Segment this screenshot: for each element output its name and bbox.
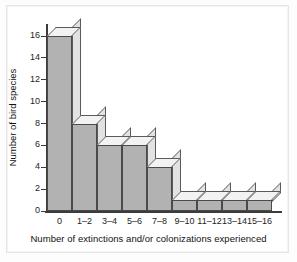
y-axis-tick xyxy=(41,145,46,146)
bar-9-10 xyxy=(172,200,197,211)
y-axis-tick-label-text: 0 xyxy=(16,206,40,215)
y-axis-tick xyxy=(41,57,46,58)
y-axis-tick-label-text: 10 xyxy=(16,97,40,106)
y-axis-tick-label: 0 xyxy=(12,206,40,215)
y-axis-tick-label: 8 xyxy=(12,119,40,128)
bar-3-4 xyxy=(97,145,122,211)
y-axis-tick-label-text: 8 xyxy=(16,119,40,128)
y-axis-tick-label: 14 xyxy=(12,53,40,62)
x-axis-title: Number of extinctions and/or colonizatio… xyxy=(0,233,297,244)
y-axis-tick xyxy=(41,79,46,80)
bar-11-12 xyxy=(197,200,222,211)
x-axis-line xyxy=(45,211,282,213)
figure-container: Number of bird species 0246810121416 01–… xyxy=(0,0,297,262)
y-axis-tick-label: 16 xyxy=(12,31,40,40)
y-axis-tick xyxy=(41,211,46,212)
y-axis-tick-label-text: 2 xyxy=(16,184,40,193)
y-axis-tick xyxy=(41,123,46,124)
y-axis-tick xyxy=(41,189,46,190)
bar-15-16 xyxy=(247,200,272,211)
y-axis-tick-label-text: 4 xyxy=(16,162,40,171)
x-axis-tick-label: 15–16 xyxy=(240,216,280,226)
y-axis-tick-label: 2 xyxy=(12,184,40,193)
bar-0 xyxy=(47,36,72,211)
bar-1-2 xyxy=(72,124,97,212)
y-axis-tick-label-text: 14 xyxy=(16,53,40,62)
y-axis-tick xyxy=(41,167,46,168)
bar-7-8 xyxy=(147,167,172,211)
y-axis-tick-label: 4 xyxy=(12,162,40,171)
y-axis-tick-label: 12 xyxy=(12,75,40,84)
bar-5-6 xyxy=(122,145,147,211)
y-axis-tick xyxy=(41,36,46,37)
y-axis-tick-label-text: 12 xyxy=(16,75,40,84)
y-axis-tick-label: 6 xyxy=(12,140,40,149)
y-axis-tick xyxy=(41,101,46,102)
y-axis-tick-label-text: 6 xyxy=(16,140,40,149)
bar-13-14 xyxy=(222,200,247,211)
y-axis-tick-label-text: 16 xyxy=(16,31,40,40)
y-axis-tick-label: 10 xyxy=(12,97,40,106)
